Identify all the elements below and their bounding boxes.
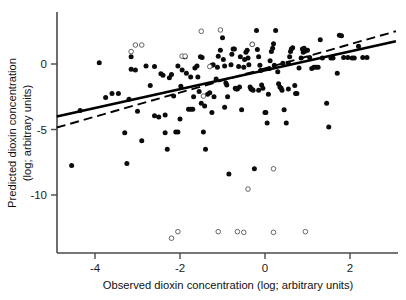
data-point-open [216, 229, 221, 234]
data-point-open [250, 42, 255, 47]
data-point-open [207, 64, 212, 69]
x-tick-label: 2 [347, 262, 353, 274]
data-point-filled [251, 88, 256, 93]
data-point-filled [169, 72, 174, 77]
data-point-filled [232, 46, 237, 51]
data-point-filled [116, 91, 121, 96]
data-point-filled [201, 130, 206, 135]
data-point-filled [209, 110, 214, 115]
data-point-filled [268, 58, 273, 63]
data-point-filled [215, 65, 220, 70]
data-points-layer [69, 28, 369, 241]
data-point-filled [178, 117, 183, 122]
data-point-filled [236, 64, 241, 69]
data-point-filled [287, 54, 292, 59]
data-point-filled [163, 130, 168, 135]
data-point-filled [220, 35, 225, 40]
data-point-filled [225, 94, 230, 99]
data-point-filled [197, 89, 202, 94]
data-point-open [235, 229, 240, 234]
data-point-open [176, 229, 181, 234]
data-point-filled [294, 91, 299, 96]
data-point-filled [316, 65, 321, 70]
data-point-filled [110, 91, 115, 96]
data-point-filled [152, 113, 157, 118]
data-point-filled [135, 109, 140, 114]
scatter-plot-figure: -4-202 0-5-10 Observed dioxin concentrat… [0, 0, 406, 300]
data-point-filled [254, 28, 259, 33]
data-point-filled [218, 48, 223, 53]
data-point-filled [273, 28, 278, 33]
data-point-filled [284, 120, 289, 125]
x-axis-title: Observed dioxin concentration (log; arbi… [103, 279, 354, 291]
data-point-filled [200, 55, 205, 60]
data-point-filled [124, 161, 129, 166]
x-tick-label: -4 [90, 262, 101, 274]
data-point-open [241, 230, 246, 235]
data-point-filled [290, 45, 295, 50]
dashed-reference-line [57, 31, 396, 127]
plot-canvas: -4-202 0-5-10 Observed dioxin concentrat… [0, 0, 406, 300]
data-point-filled [260, 86, 265, 91]
data-point-filled [212, 94, 217, 99]
data-point-open [133, 43, 138, 48]
data-point-filled [163, 113, 168, 118]
data-point-filled [265, 120, 270, 125]
data-point-filled [238, 54, 243, 59]
data-point-open [246, 187, 251, 192]
y-axis-title-line-2: (log; arbitrary units) [21, 85, 33, 182]
data-point-filled [280, 88, 285, 93]
data-point-filled [326, 124, 331, 129]
y-tick-label: -5 [37, 124, 47, 136]
data-point-filled [229, 62, 234, 67]
data-point-filled [292, 83, 297, 88]
data-point-filled [165, 147, 170, 152]
data-point-filled [148, 83, 153, 88]
data-point-filled [202, 103, 207, 108]
data-point-filled [226, 172, 231, 177]
data-point-filled [335, 71, 340, 76]
data-point-filled [282, 107, 287, 112]
data-point-filled [255, 47, 260, 52]
data-point-filled [263, 110, 268, 115]
data-point-open [169, 236, 174, 241]
data-point-filled [297, 65, 302, 70]
y-axis-ticks: 0-5-10 [30, 58, 57, 201]
y-tick-label: -10 [30, 189, 47, 201]
x-axis-ticks: -4-202 [90, 253, 353, 274]
data-point-filled [246, 62, 251, 67]
data-point-filled [97, 60, 102, 65]
data-point-open [201, 94, 206, 99]
data-point-filled [270, 46, 275, 51]
data-point-filled [139, 138, 144, 143]
data-point-filled [222, 63, 227, 68]
data-point-filled [156, 115, 161, 120]
x-tick-label: 0 [262, 262, 268, 274]
data-point-filled [195, 63, 200, 68]
data-point-filled [203, 147, 208, 152]
data-point-filled [266, 92, 271, 97]
data-point-filled [129, 67, 134, 72]
data-point-filled [207, 90, 212, 95]
data-point-filled [286, 86, 291, 91]
data-point-open [199, 29, 204, 34]
data-point-open [183, 54, 188, 59]
data-point-filled [245, 48, 250, 53]
data-point-open [139, 43, 144, 48]
data-point-filled [175, 63, 180, 68]
data-point-filled [339, 33, 344, 38]
data-point-filled [352, 56, 357, 61]
data-point-filled [144, 63, 149, 68]
data-point-filled [222, 105, 227, 110]
data-point-filled [161, 73, 166, 78]
axes-group [57, 12, 398, 253]
data-point-filled [271, 41, 276, 46]
data-point-filled [191, 94, 196, 99]
data-point-filled [256, 88, 261, 93]
data-point-filled [175, 130, 180, 135]
data-point-filled [184, 71, 189, 76]
data-point-filled [246, 56, 251, 61]
data-point-filled [256, 54, 261, 59]
data-point-filled [229, 52, 234, 57]
data-point-filled [365, 55, 370, 60]
